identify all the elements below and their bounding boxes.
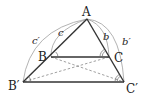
label-point-bprime: B′ bbox=[8, 79, 20, 93]
label-point-c: C bbox=[114, 51, 123, 65]
label-point-a: A bbox=[81, 5, 91, 19]
label-side-b: b bbox=[103, 31, 109, 42]
label-side-c: c bbox=[58, 27, 64, 38]
angle-mark-cprime-1 bbox=[117, 76, 120, 82]
label-point-b: B bbox=[38, 50, 47, 64]
angle-mark-c-1 bbox=[102, 51, 105, 57]
angle-mark-bprime bbox=[29, 77, 32, 83]
label-side-c-prime: c′ bbox=[32, 35, 41, 46]
label-point-cprime: C′ bbox=[126, 82, 138, 96]
label-side-b-prime: b′ bbox=[122, 36, 131, 47]
angle-mark-b bbox=[56, 52, 58, 57]
similar-triangles-diagram: A B C B′ C′ c b c′ b′ bbox=[0, 0, 150, 103]
